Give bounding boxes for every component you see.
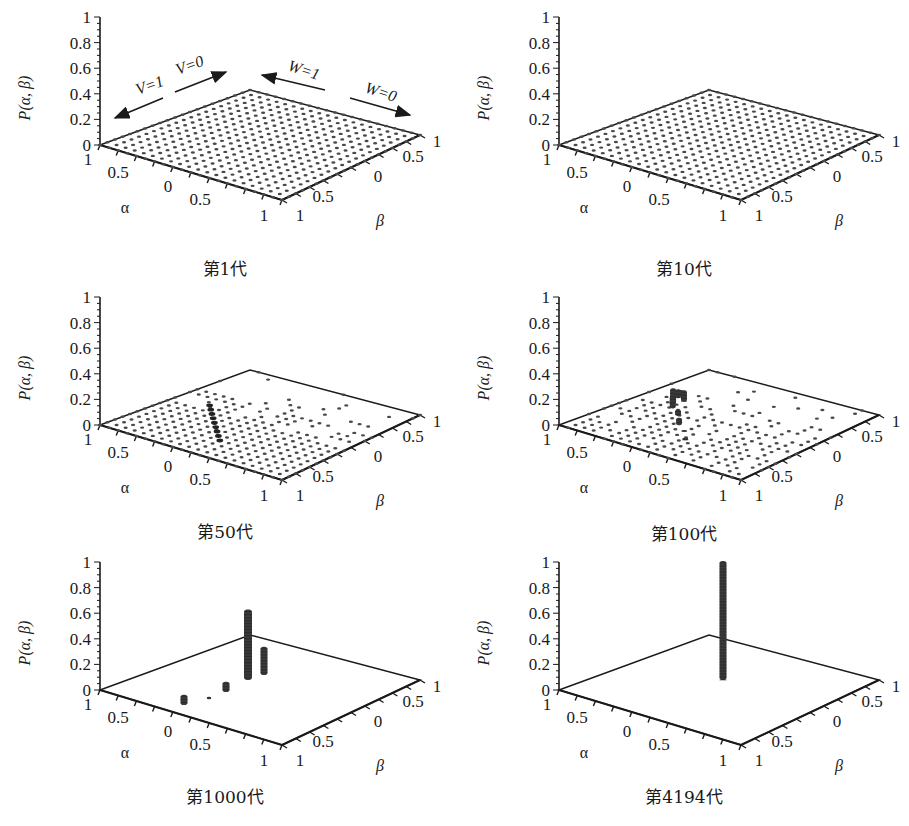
beta-tick-label: 1	[296, 206, 305, 225]
alpha-tick-label: 0.5	[648, 470, 669, 489]
z-tick-label: 0.2	[529, 655, 550, 674]
beta-tick-label: 0.5	[861, 427, 882, 446]
beta-axis-label: β	[834, 212, 843, 230]
alpha-tick-label: 0.5	[566, 708, 587, 727]
alpha-tick-label: 0	[164, 722, 173, 741]
alpha-tick-label: 1	[84, 430, 93, 449]
probability-bar	[681, 430, 687, 432]
alpha-tick-label: 0.5	[566, 163, 587, 182]
alpha-tick-label: 0.5	[189, 190, 210, 209]
alpha-tick-label: 1	[719, 486, 728, 505]
beta-tick-label: 0.5	[402, 427, 423, 446]
z-tick-label: 0.8	[70, 314, 91, 333]
z-tick-label: 0.2	[529, 390, 550, 409]
beta-tick-label: 0.5	[861, 147, 882, 166]
alpha-axis-label: α	[121, 744, 130, 761]
probability-bar	[670, 388, 676, 403]
z-tick-label: 0.2	[70, 655, 91, 674]
plot-3d-gen-100: 00.20.40.60.81P(α, β)10.500.51α10.500.51…	[459, 280, 909, 550]
alpha-tick-label: 0.5	[107, 708, 128, 727]
caption-gen-1000: 第1000代	[0, 783, 450, 808]
beta-tick-label: 0.5	[312, 732, 333, 751]
beta-tick-label: 1	[296, 751, 305, 770]
axes: 00.20.40.60.81P(α, β)10.500.51α10.500.51…	[475, 553, 900, 775]
z-tick-label: 1	[542, 288, 551, 307]
alpha-tick-label: 0.5	[107, 163, 128, 182]
alpha-tick-label: 1	[719, 206, 728, 225]
beta-tick-label: 0.5	[771, 467, 792, 486]
z-tick-label: 0.4	[529, 365, 551, 384]
beta-tick-label: 0.5	[771, 732, 792, 751]
caption-gen-4194: 第4194代	[459, 783, 909, 808]
beta-tick-label: 0	[374, 167, 383, 186]
alpha-tick-label: 1	[719, 751, 728, 770]
z-tick-label: 0.6	[70, 604, 91, 623]
probability-grid	[566, 369, 864, 481]
beta-tick-label: 1	[892, 677, 901, 696]
alpha-tick-label: 0	[164, 457, 173, 476]
alpha-tick-label: 0	[164, 177, 173, 196]
z-tick-label: 0.8	[529, 579, 550, 598]
beta-axis-label: β	[834, 757, 843, 775]
caption-gen-100: 第100代	[459, 520, 909, 545]
beta-tick-label: 0.5	[861, 692, 882, 711]
panel-gen-1: 00.20.40.60.81P(α, β)10.500.51α10.500.51…	[0, 0, 450, 270]
beta-tick-label: 0	[374, 447, 383, 466]
probability-bars	[181, 610, 268, 705]
alpha-tick-label: 1	[543, 150, 552, 169]
axes: 00.20.40.60.81P(α, β)10.500.51α10.500.51…	[16, 288, 441, 510]
alpha-tick-label: 1	[260, 751, 269, 770]
panel-gen-100: 00.20.40.60.81P(α, β)10.500.51α10.500.51…	[459, 280, 909, 550]
caption-gen-50: 第50代	[0, 518, 450, 543]
z-tick-label: 0.8	[529, 314, 550, 333]
direction-arrow-icon	[350, 98, 410, 115]
z-tick-label: 1	[83, 288, 92, 307]
caption-gen-10: 第10代	[459, 255, 909, 280]
beta-tick-label: 0	[833, 167, 842, 186]
probability-bar	[675, 410, 681, 416]
panel-gen-10: 00.20.40.60.81P(α, β)10.500.51α10.500.51…	[459, 0, 909, 270]
z-axis-label: P(α, β)	[16, 356, 34, 402]
plot-3d-gen-50: 00.20.40.60.81P(α, β)10.500.51α10.500.51…	[0, 280, 450, 550]
z-tick-label: 0.8	[70, 579, 91, 598]
beta-tick-label: 0.5	[402, 147, 423, 166]
z-tick-label: 0.6	[70, 59, 91, 78]
alpha-tick-label: 1	[543, 695, 552, 714]
alpha-axis-label: α	[580, 744, 589, 761]
plot-3d-gen-1000: 00.20.40.60.81P(α, β)10.500.51α10.500.51…	[0, 545, 450, 815]
alpha-axis-label: α	[121, 199, 130, 216]
axes: 00.20.40.60.81P(α, β)10.500.51α10.500.51…	[16, 8, 441, 230]
annotation-w0: W=0	[363, 79, 399, 105]
z-tick-label: 1	[83, 8, 92, 27]
beta-axis-label: β	[375, 492, 384, 510]
z-tick-label: 0.6	[70, 339, 91, 358]
z-tick-label: 0.2	[70, 390, 91, 409]
beta-tick-label: 0.5	[312, 467, 333, 486]
beta-tick-label: 1	[755, 206, 764, 225]
panel-gen-1000: 00.20.40.60.81P(α, β)10.500.51α10.500.51…	[0, 545, 450, 815]
alpha-tick-label: 1	[260, 206, 269, 225]
z-axis-label: P(α, β)	[475, 621, 493, 667]
beta-tick-label: 1	[755, 751, 764, 770]
z-tick-label: 0.4	[70, 365, 92, 384]
direction-arrow-icon	[115, 98, 163, 118]
z-axis-label: P(α, β)	[475, 76, 493, 122]
alpha-tick-label: 1	[543, 430, 552, 449]
beta-tick-label: 0.5	[771, 187, 792, 206]
alpha-tick-label: 0.5	[107, 443, 128, 462]
axes: 00.20.40.60.81P(α, β)10.500.51α10.500.51…	[475, 288, 900, 510]
probability-bars	[720, 561, 727, 680]
z-tick-label: 0.2	[70, 110, 91, 129]
panel-gen-4194: 00.20.40.60.81P(α, β)10.500.51α10.500.51…	[459, 545, 909, 815]
beta-tick-label: 0	[374, 712, 383, 731]
plot-3d-gen-10: 00.20.40.60.81P(α, β)10.500.51α10.500.51…	[459, 0, 909, 270]
beta-tick-label: 1	[892, 132, 901, 151]
z-axis-label: P(α, β)	[16, 76, 34, 122]
annotation-v0: V=0	[173, 52, 206, 78]
alpha-tick-label: 0	[623, 457, 632, 476]
alpha-tick-label: 1	[84, 695, 93, 714]
alpha-tick-label: 0.5	[566, 443, 587, 462]
beta-tick-label: 0.5	[312, 187, 333, 206]
axes: 00.20.40.60.81P(α, β)10.500.51α10.500.51…	[16, 553, 441, 775]
alpha-tick-label: 0	[623, 722, 632, 741]
